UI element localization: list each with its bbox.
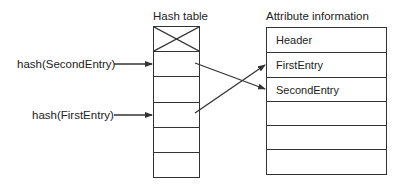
hash-slot [154, 152, 199, 177]
hash-slot [154, 51, 199, 76]
hash-slot-crossed [154, 27, 199, 51]
attribute-row-second-entry: SecondEntry [267, 77, 386, 101]
attribute-row-header: Header [267, 28, 386, 52]
cross-icon [154, 27, 199, 51]
attribute-row-empty [267, 125, 386, 149]
attribute-row-empty [267, 101, 386, 125]
attribute-row-empty [267, 149, 386, 173]
attribute-row-first-entry: FirstEntry [267, 52, 386, 76]
hash-second-entry-label: hash(SecondEntry) [17, 57, 115, 71]
hash-slot [154, 76, 199, 101]
hash-first-entry-label: hash(FirstEntry) [32, 108, 114, 122]
arrow-slot-to-second-entry [195, 63, 265, 89]
hash-slot [154, 127, 199, 152]
attribute-info-title: Attribute information [266, 9, 369, 23]
arrow-slot-to-first-entry [195, 65, 265, 113]
hash-table [153, 26, 200, 178]
attribute-table: Header FirstEntry SecondEntry [266, 27, 387, 175]
hash-table-title: Hash table [153, 9, 208, 23]
hash-slot [154, 102, 199, 127]
